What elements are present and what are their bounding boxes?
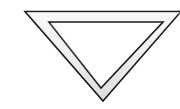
triangle-figure: [0, 0, 180, 109]
figure-canvas: [0, 0, 180, 109]
